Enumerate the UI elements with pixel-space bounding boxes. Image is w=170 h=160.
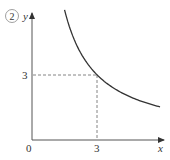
hyperbola-curve xyxy=(65,10,160,107)
figure-number-badge: 2 xyxy=(6,10,19,23)
y-axis-label: y xyxy=(22,10,28,22)
graph-figure: 2 y x 0 3 3 xyxy=(0,0,170,160)
figure-number: 2 xyxy=(10,11,15,22)
origin-label: 0 xyxy=(26,142,32,154)
y-tick-label-3: 3 xyxy=(22,69,28,81)
x-axis-label: x xyxy=(157,142,163,154)
x-tick-label-3: 3 xyxy=(94,142,100,154)
